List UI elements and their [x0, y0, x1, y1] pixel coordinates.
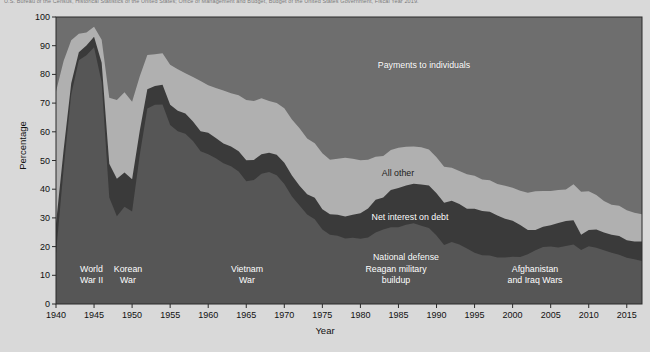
x-tick-label: 1970 [266, 310, 302, 320]
x-tick-label: 1950 [114, 310, 150, 320]
x-tick-label: 2015 [609, 310, 645, 320]
series-label-interest: Net interest on debt [372, 212, 449, 222]
stacked-area-chart: Percentage Year 0102030405060708090100 1… [0, 0, 650, 352]
x-tick-label: 1965 [228, 310, 264, 320]
y-tick-label: 30 [24, 213, 50, 223]
era-label-afghaniraq: Afghanistan and Iraq Wars [508, 264, 563, 286]
y-tick-label: 0 [24, 299, 50, 309]
x-tick-label: 2000 [495, 310, 531, 320]
plot-area-svg [0, 0, 650, 352]
x-tick-label: 1985 [380, 310, 416, 320]
y-tick-label: 100 [24, 12, 50, 22]
y-tick-label: 70 [24, 98, 50, 108]
y-tick-label: 10 [24, 270, 50, 280]
y-axis-title: Percentage [17, 111, 28, 181]
x-tick-label: 1960 [190, 310, 226, 320]
y-tick-label: 80 [24, 69, 50, 79]
series-label-defense: National defense [373, 252, 439, 262]
x-tick-label: 1980 [342, 310, 378, 320]
era-label-reagan: Reagan military buildup [365, 264, 426, 286]
x-tick-label: 1990 [419, 310, 455, 320]
x-axis-title: Year [0, 325, 650, 336]
era-label-korea: Korean War [114, 264, 142, 286]
x-tick-label: 2010 [571, 310, 607, 320]
y-tick-label: 60 [24, 127, 50, 137]
x-tick-label: 1945 [76, 310, 112, 320]
era-label-vietnam: Vietnam War [231, 264, 263, 286]
x-tick-label: 1975 [304, 310, 340, 320]
y-tick-label: 90 [24, 41, 50, 51]
era-label-wwii: World War II [80, 264, 103, 286]
x-tick-label: 2005 [533, 310, 569, 320]
x-tick-label: 1995 [457, 310, 493, 320]
x-tick-label: 1940 [38, 310, 74, 320]
y-tick-label: 20 [24, 242, 50, 252]
y-tick-label: 50 [24, 156, 50, 166]
y-tick-label: 40 [24, 184, 50, 194]
x-tick-label: 1955 [152, 310, 188, 320]
series-label-allother: All other [382, 168, 414, 178]
series-label-payments: Payments to individuals [378, 60, 470, 70]
